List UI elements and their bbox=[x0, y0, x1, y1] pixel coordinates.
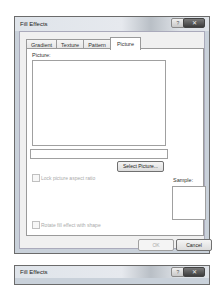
title-bar[interactable]: Fill Effects ? ✕ bbox=[15, 17, 209, 31]
close-icon: ✕ bbox=[192, 20, 197, 26]
help-icon: ? bbox=[177, 269, 180, 275]
picture-preview bbox=[32, 60, 166, 146]
title-bar-second[interactable]: Fill Effects ? ✕ bbox=[15, 266, 209, 278]
lock-aspect-checkbox[interactable] bbox=[32, 174, 40, 182]
dialog-title: Fill Effects bbox=[20, 21, 48, 27]
close-icon: ✕ bbox=[192, 269, 197, 275]
picture-tab-panel: Picture: Select Picture... Lock picture … bbox=[26, 48, 204, 236]
rotate-fill-label: Rotate fill effect with shape bbox=[41, 222, 101, 228]
close-button[interactable]: ✕ bbox=[183, 18, 205, 28]
cancel-button[interactable]: Cancel bbox=[176, 239, 212, 251]
sample-label: Sample: bbox=[173, 177, 193, 183]
ok-button[interactable]: OK bbox=[138, 239, 174, 251]
select-picture-button[interactable]: Select Picture... bbox=[117, 161, 164, 172]
dialog-title-second: Fill Effects bbox=[20, 269, 48, 275]
fill-effects-dialog: Fill Effects ? ✕ Gradient Texture Patter… bbox=[14, 16, 210, 254]
close-button-second[interactable]: ✕ bbox=[183, 267, 205, 277]
picture-path-field bbox=[30, 149, 168, 159]
tab-picture[interactable]: Picture bbox=[110, 37, 141, 50]
picture-label: Picture: bbox=[32, 52, 51, 58]
lock-aspect-label: Lock picture aspect ratio bbox=[41, 175, 95, 181]
dialog-client-area: Gradient Texture Pattern Picture Picture… bbox=[19, 31, 205, 249]
fill-effects-dialog-second: Fill Effects ? ✕ bbox=[14, 265, 210, 285]
sample-preview bbox=[172, 186, 206, 220]
rotate-fill-checkbox[interactable] bbox=[32, 221, 40, 229]
help-icon: ? bbox=[177, 20, 180, 26]
